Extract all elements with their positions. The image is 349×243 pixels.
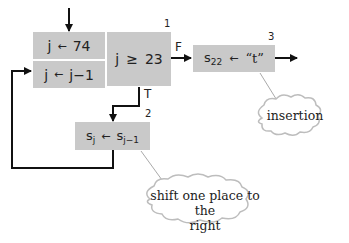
shift-annotation: shift one place to the right bbox=[146, 188, 264, 233]
insert-box: s22 ← “t” bbox=[193, 45, 275, 72]
test-box-number: 1 bbox=[164, 18, 170, 29]
init-var: j bbox=[48, 38, 52, 54]
shift-annotation-line1: shift one place to the bbox=[146, 188, 264, 218]
shift-rhs-subscript: j−1 bbox=[123, 135, 139, 145]
test-box: j ≥ 23 bbox=[107, 32, 171, 86]
init-box: j ← 74 bbox=[33, 32, 105, 60]
assign-arrow-icon: ← bbox=[57, 40, 66, 53]
shift-box-number: 2 bbox=[145, 108, 151, 119]
test-value: 23 bbox=[145, 51, 163, 67]
shift-lhs: sj bbox=[86, 128, 95, 145]
decrement-box: j ← j−1 bbox=[33, 59, 105, 88]
test-op: ≥ bbox=[126, 51, 138, 67]
insertion-callout-line bbox=[260, 73, 278, 102]
insert-lhs-subscript: 22 bbox=[211, 57, 222, 67]
assign-arrow-icon: ← bbox=[229, 52, 238, 65]
true-arrow bbox=[113, 87, 139, 121]
shift-box: sj ← sj−1 bbox=[75, 122, 150, 150]
insert-box-number: 3 bbox=[268, 31, 274, 42]
true-label: T bbox=[144, 87, 151, 101]
insert-lhs: s22 bbox=[204, 50, 222, 67]
test-var: j bbox=[115, 51, 119, 67]
insert-rhs: “t” bbox=[245, 51, 264, 66]
shift-lhs-subscript: j bbox=[93, 135, 96, 145]
insertion-annotation: insertion bbox=[262, 108, 328, 123]
shift-annotation-line2: right bbox=[146, 218, 264, 233]
assign-arrow-icon: ← bbox=[54, 68, 63, 81]
assign-arrow-icon: ← bbox=[101, 130, 110, 143]
decrement-value: j−1 bbox=[69, 67, 94, 83]
shift-callout-line bbox=[141, 151, 162, 180]
decrement-var: j bbox=[44, 67, 48, 83]
shift-rhs: sj−1 bbox=[116, 128, 139, 145]
init-value: 74 bbox=[73, 38, 91, 54]
false-label: F bbox=[175, 40, 182, 54]
